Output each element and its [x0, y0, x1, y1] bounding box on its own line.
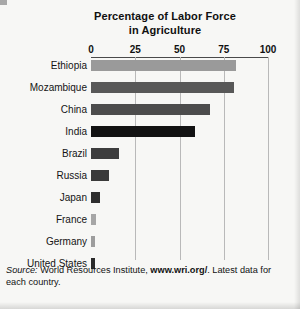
- bar-category-label: Germany: [46, 236, 87, 248]
- source-text-before-url: World Resources Institute,: [38, 265, 151, 275]
- bar-category-label: Japan: [60, 192, 87, 204]
- bar-row: Russia: [0, 170, 300, 192]
- bar-row: Germany: [0, 236, 300, 258]
- x-tick-label: 0: [88, 44, 94, 55]
- bar: [91, 60, 236, 71]
- x-tick-label: 50: [174, 44, 185, 55]
- page-edge-bottom: [0, 302, 300, 309]
- bar-category-label: Mozambique: [30, 82, 87, 94]
- x-tick-label: 75: [218, 44, 229, 55]
- plot-area: 0255075100 EthiopiaMozambiqueChinaIndiaB…: [0, 0, 300, 309]
- bar-row: Brazil: [0, 148, 300, 170]
- bar-category-label: Ethiopia: [51, 60, 87, 72]
- bar-category-label: China: [61, 104, 87, 116]
- x-axis-tick-labels: 0255075100: [0, 44, 300, 56]
- bar-category-label: Brazil: [62, 148, 87, 160]
- bar-category-label: India: [65, 126, 87, 138]
- bar-row: France: [0, 214, 300, 236]
- source-note: Source: World Resources Institute, www.w…: [6, 264, 292, 288]
- bar-row: Japan: [0, 192, 300, 214]
- x-tick-label: 100: [260, 44, 277, 55]
- bar-category-label: France: [56, 214, 87, 226]
- bar: [91, 82, 234, 93]
- bar: [91, 170, 109, 181]
- bar: [91, 104, 210, 115]
- bar-series: EthiopiaMozambiqueChinaIndiaBrazilRussia…: [0, 60, 300, 280]
- bar: [91, 192, 100, 203]
- bar-row: Mozambique: [0, 82, 300, 104]
- bar-row: Ethiopia: [0, 60, 300, 82]
- bar-row: China: [0, 104, 300, 126]
- source-label: Source:: [6, 265, 38, 275]
- bar: [91, 214, 96, 225]
- bar: [91, 148, 119, 159]
- chart-figure: Percentage of Labor Force in Agriculture…: [0, 0, 300, 309]
- bar-category-label: Russia: [56, 170, 87, 182]
- bar: [91, 126, 195, 137]
- bar: [91, 236, 95, 247]
- source-url[interactable]: www.wri.org/: [150, 265, 207, 275]
- x-tick-label: 25: [130, 44, 141, 55]
- page-edge-right: [294, 0, 300, 309]
- bar-row: India: [0, 126, 300, 148]
